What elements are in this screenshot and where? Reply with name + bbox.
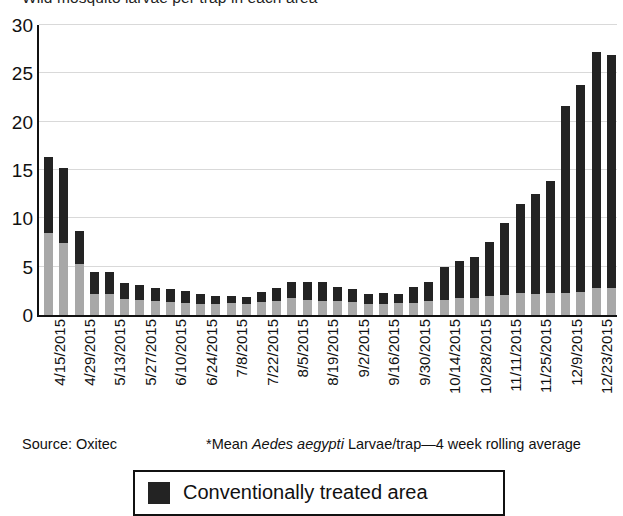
- x-tick-label: 12/9/2015: [569, 319, 584, 386]
- bar-group[interactable]: [576, 85, 585, 315]
- bar-segment-conventionally-treated: [531, 194, 540, 294]
- bar-segment-control: [333, 301, 342, 315]
- bar-group[interactable]: [561, 106, 570, 315]
- x-tick-label: 10/14/2015: [447, 319, 462, 394]
- bar-segment-conventionally-treated: [120, 283, 129, 298]
- bar-segment-control: [151, 301, 160, 315]
- bar-segment-conventionally-treated: [561, 106, 570, 293]
- bar-segment-conventionally-treated: [166, 289, 175, 303]
- bar-group[interactable]: [59, 168, 68, 315]
- bar-group[interactable]: [546, 181, 555, 315]
- x-tick-label: 12/23/2015: [599, 319, 614, 394]
- x-tick-label: 9/2/2015: [356, 319, 371, 377]
- bar-segment-control: [120, 299, 129, 315]
- bar-group[interactable]: [409, 287, 418, 315]
- y-tick-label: 0: [22, 306, 33, 325]
- bar-segment-control: [424, 301, 433, 315]
- bar-segment-conventionally-treated: [196, 294, 205, 305]
- legend-entry[interactable]: Conventionally treated area: [148, 481, 428, 504]
- bar-group[interactable]: [364, 294, 373, 315]
- x-tick-label: 5/27/2015: [143, 319, 158, 386]
- x-axis: 4/15/20154/29/20155/13/20155/27/20156/10…: [37, 319, 615, 419]
- bar-group[interactable]: [120, 283, 129, 315]
- x-tick-label: 9/16/2015: [386, 319, 401, 386]
- bar-segment-control: [592, 288, 601, 315]
- bar-group[interactable]: [303, 282, 312, 315]
- bar-segment-conventionally-treated: [576, 85, 585, 292]
- bar-group[interactable]: [166, 289, 175, 315]
- bar-segment-conventionally-treated: [364, 294, 373, 305]
- y-tick-label: 25: [12, 64, 33, 83]
- bar-group[interactable]: [607, 55, 616, 315]
- bar-segment-control: [394, 303, 403, 315]
- bars-layer: [39, 25, 617, 315]
- bar-group[interactable]: [287, 282, 296, 315]
- bar-segment-conventionally-treated: [105, 272, 114, 294]
- bar-group[interactable]: [485, 242, 494, 315]
- bar-segment-control: [500, 295, 509, 315]
- bar-segment-conventionally-treated: [409, 287, 418, 303]
- y-axis: 051015202530: [0, 25, 33, 315]
- bar-segment-conventionally-treated: [318, 282, 327, 301]
- bar-group[interactable]: [105, 272, 114, 316]
- bar-segment-conventionally-treated: [303, 282, 312, 299]
- bar-segment-control: [576, 292, 585, 315]
- x-tick-label: 11/11/2015: [508, 319, 523, 392]
- bar-group[interactable]: [242, 297, 251, 315]
- bar-group[interactable]: [470, 257, 479, 315]
- bar-group[interactable]: [181, 291, 190, 315]
- bar-segment-conventionally-treated: [242, 297, 251, 305]
- bar-group[interactable]: [90, 272, 99, 316]
- bar-segment-control: [166, 302, 175, 315]
- bar-segment-conventionally-treated: [424, 282, 433, 301]
- x-tick-label: 8/5/2015: [295, 319, 310, 377]
- bar-segment-control: [227, 303, 236, 315]
- legend-label: Conventionally treated area: [183, 481, 428, 504]
- chart-title: Wild mosquito larvae per trap in each ar…: [22, 0, 317, 7]
- bar-group[interactable]: [257, 292, 266, 315]
- x-tick-label: 8/19/2015: [325, 319, 340, 386]
- bar-group[interactable]: [272, 288, 281, 315]
- bar-segment-conventionally-treated: [379, 293, 388, 305]
- legend-swatch-icon: [148, 482, 170, 504]
- methodology-note-suffix: Larvae/trap—4 week rolling average: [344, 436, 581, 452]
- bar-group[interactable]: [348, 289, 357, 315]
- bar-group[interactable]: [75, 231, 84, 315]
- y-tick-label: 10: [12, 209, 33, 228]
- bar-segment-conventionally-treated: [470, 257, 479, 298]
- bar-group[interactable]: [424, 282, 433, 315]
- bar-group[interactable]: [379, 293, 388, 315]
- bar-group[interactable]: [531, 194, 540, 315]
- bar-group[interactable]: [394, 294, 403, 315]
- bar-group[interactable]: [135, 285, 144, 315]
- bar-group[interactable]: [333, 287, 342, 315]
- bar-group[interactable]: [500, 223, 509, 315]
- bar-segment-control: [318, 301, 327, 315]
- x-tick-label: 6/24/2015: [204, 319, 219, 386]
- bar-group[interactable]: [455, 261, 464, 315]
- bar-group[interactable]: [440, 267, 449, 315]
- bar-segment-conventionally-treated: [44, 157, 53, 232]
- bar-group[interactable]: [318, 282, 327, 315]
- y-tick-label: 30: [12, 16, 33, 35]
- bar-group[interactable]: [151, 288, 160, 315]
- bar-group[interactable]: [592, 52, 601, 315]
- bar-segment-conventionally-treated: [90, 272, 99, 294]
- bar-segment-control: [272, 301, 281, 316]
- methodology-note-prefix: *Mean: [206, 436, 252, 452]
- bar-segment-conventionally-treated: [59, 168, 68, 242]
- bar-segment-conventionally-treated: [151, 288, 160, 302]
- bar-group[interactable]: [227, 296, 236, 315]
- bar-group[interactable]: [196, 294, 205, 315]
- bar-segment-control: [364, 304, 373, 315]
- bar-segment-conventionally-treated: [455, 261, 464, 298]
- legend: Conventionally treated area: [133, 470, 505, 516]
- bar-segment-control: [181, 303, 190, 315]
- bar-segment-conventionally-treated: [440, 267, 449, 300]
- bar-group[interactable]: [44, 157, 53, 315]
- bar-group[interactable]: [516, 204, 525, 315]
- y-tick-label: 15: [12, 161, 33, 180]
- y-tick-label: 20: [12, 112, 33, 131]
- bar-group[interactable]: [211, 296, 220, 315]
- bar-segment-control: [516, 293, 525, 315]
